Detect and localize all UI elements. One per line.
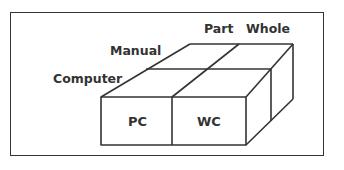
top-right-edge [246, 44, 293, 97]
front-face [101, 97, 246, 145]
cube-drawing [0, 0, 344, 170]
cell-pc: PC [128, 115, 147, 128]
right-bottom-edge [246, 99, 293, 145]
label-whole: Whole [246, 23, 290, 36]
cell-wc: WC [197, 115, 221, 128]
label-part: Part [204, 23, 233, 36]
label-computer: Computer [53, 73, 122, 86]
label-manual: Manual [110, 45, 161, 58]
top-divider [172, 44, 239, 97]
